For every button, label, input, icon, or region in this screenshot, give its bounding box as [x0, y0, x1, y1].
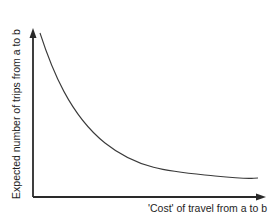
x-axis	[33, 194, 266, 201]
chart: Expected number of trips from a to b 'Co…	[0, 0, 280, 215]
y-axis-arrow-icon	[30, 28, 37, 38]
y-axis	[30, 28, 37, 197]
y-axis-label: Expected number of trips from a to b	[10, 29, 22, 199]
x-axis-arrow-icon	[256, 194, 266, 201]
x-axis-label: 'Cost' of travel from a to b	[148, 202, 267, 214]
distance-decay-curve	[40, 33, 258, 179]
